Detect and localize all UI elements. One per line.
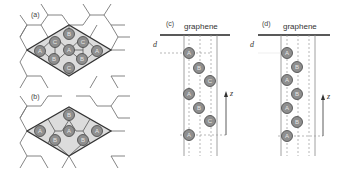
svg-text:A: A (285, 50, 289, 56)
atom: A (282, 131, 293, 142)
atom: A (92, 126, 103, 137)
atom: C (78, 37, 89, 48)
svg-text:B: B (197, 65, 201, 71)
atom: A (282, 48, 293, 59)
svg-text:A: A (187, 50, 191, 56)
atom: B (292, 117, 303, 128)
z-axis-label-c: z (229, 89, 234, 98)
atom: B (78, 135, 89, 146)
svg-text:A: A (187, 132, 191, 138)
panel-c: (c) graphene d z A B C A B C A (153, 20, 234, 156)
atom: A (92, 46, 103, 57)
svg-text:A: A (95, 128, 99, 134)
svg-text:A: A (95, 48, 99, 54)
svg-text:A: A (38, 128, 42, 134)
svg-text:C: C (208, 78, 213, 84)
atom: B (64, 29, 75, 40)
svg-text:A: A (285, 105, 289, 111)
atom: C (205, 116, 216, 127)
graphene-label-d: graphene (283, 22, 317, 31)
panel-label-b: (b) (31, 93, 40, 101)
panel-label-d: (d) (262, 20, 271, 28)
arrow-head-icon (321, 94, 325, 100)
svg-text:B: B (53, 137, 57, 143)
distance-label-d: d (250, 40, 255, 49)
svg-text:B: B (295, 119, 299, 125)
atom: B (292, 89, 303, 100)
svg-text:B: B (80, 56, 84, 62)
svg-text:C: C (53, 39, 58, 45)
atom: C (64, 63, 75, 74)
panel-b: (b) B A A A B B (20, 93, 130, 168)
atom: A (35, 46, 46, 57)
panel-label-c: (c) (166, 20, 174, 28)
svg-text:A: A (67, 47, 71, 53)
panel-d: (d) graphene d z A B A B A B A (250, 20, 331, 156)
atom: B (49, 54, 60, 65)
atom: C (205, 76, 216, 87)
atom: A (184, 89, 195, 100)
svg-text:B: B (81, 137, 85, 143)
atom: A (184, 130, 195, 141)
svg-text:B: B (67, 31, 71, 37)
svg-text:B: B (295, 64, 299, 70)
svg-text:B: B (295, 91, 299, 97)
atom: B (64, 110, 75, 121)
svg-text:B: B (52, 56, 56, 62)
atom: A (282, 75, 293, 86)
svg-text:B: B (197, 105, 201, 111)
atom: A (35, 126, 46, 137)
atoms-c: A B C A B C A (184, 48, 216, 141)
svg-text:A: A (187, 91, 191, 97)
atom: B (292, 62, 303, 73)
svg-text:C: C (67, 65, 72, 71)
atom: C (50, 37, 61, 48)
svg-text:C: C (81, 39, 86, 45)
atom: B (77, 54, 88, 65)
atom: A (282, 103, 293, 114)
arrow-head-icon (224, 91, 228, 97)
atoms-d: A B A B A B A (282, 48, 303, 142)
atom: A (184, 48, 195, 59)
panel-label-a: (a) (31, 11, 40, 19)
svg-text:B: B (67, 112, 71, 118)
atom: B (50, 135, 61, 146)
figure-canvas: (a) B C C A A A B B C (b) B A A A (0, 0, 345, 176)
svg-text:C: C (208, 118, 213, 124)
svg-text:A: A (285, 77, 289, 83)
atom: A (64, 45, 75, 56)
atom: B (194, 63, 205, 74)
graphene-label-c: graphene (184, 22, 218, 31)
svg-text:A: A (285, 133, 289, 139)
distance-label-c: d (153, 40, 158, 49)
svg-text:A: A (67, 128, 71, 134)
atom: A (64, 126, 75, 137)
panel-a: (a) B C C A A A B B C (20, 4, 130, 88)
atoms-a: B C C A A A B B C (35, 29, 103, 74)
z-axis-label-d: z (326, 92, 331, 101)
svg-text:A: A (38, 48, 42, 54)
atom: B (194, 103, 205, 114)
